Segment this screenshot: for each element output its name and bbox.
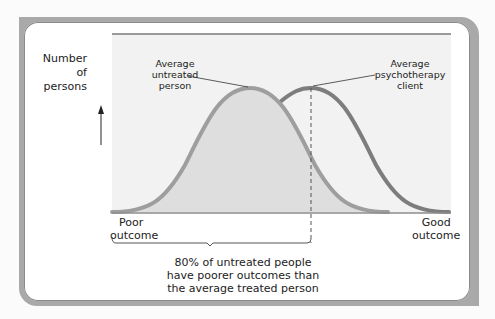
treated-annotation: Average psychotherapy client [370,58,450,91]
annotation-line: psychotherapy [370,69,450,80]
caption: 80% of untreated people have poorer outc… [148,256,338,295]
y-axis-label: Number of persons [33,52,87,94]
annotation-line: Average [370,58,450,69]
annotation-line: Average [145,58,205,69]
caption-line: have poorer outcomes than [148,269,338,282]
annotation-line: client [370,80,450,91]
y-axis-label-line: Number of [33,52,87,80]
caption-line: 80% of untreated people [148,256,338,269]
caption-line: the average treated person [148,282,338,295]
annotation-line: untreated [145,69,205,80]
x-axis-label-line: outcome [412,229,460,242]
y-axis-label-line: persons [33,80,87,94]
up-arrow-icon [98,105,104,114]
x-axis-label-poor: Poor outcome [110,216,158,242]
untreated-annotation: Average untreated person [145,58,205,91]
x-axis-label-good: Good outcome [412,216,460,242]
x-axis-label-line: Good [412,216,460,229]
annotation-line: person [145,80,205,91]
x-axis-label-line: Poor [110,216,158,229]
x-axis-label-line: outcome [110,229,158,242]
